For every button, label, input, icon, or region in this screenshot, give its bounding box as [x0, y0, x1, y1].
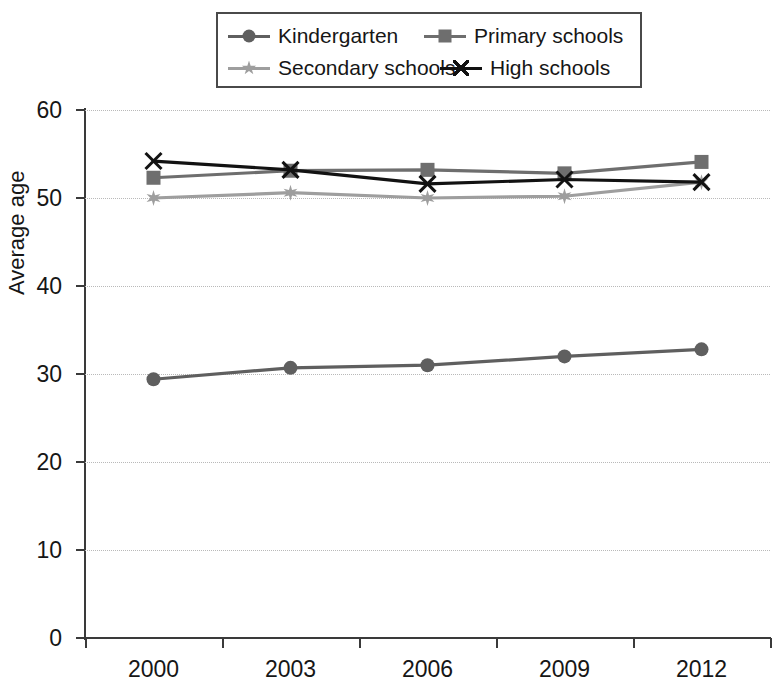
y-tick-label-10: 10	[36, 537, 62, 564]
x-tick-label-2012: 2012	[676, 656, 727, 683]
plot-area: 0102030405060 20002003200620092012	[85, 110, 770, 638]
square-marker-icon	[147, 171, 161, 185]
legend-marker-square-icon	[424, 26, 466, 46]
y-tick-0: 0	[76, 637, 85, 639]
series-secondary-schools	[147, 174, 709, 206]
legend-entry-high-schools: High schools	[440, 56, 630, 80]
square-marker-icon	[439, 30, 452, 43]
y-tick-60: 60	[76, 109, 85, 111]
series-layer	[85, 110, 770, 638]
x-tick-label-2006: 2006	[402, 656, 453, 683]
x-tick-1	[222, 638, 224, 648]
square-marker-icon	[695, 155, 709, 169]
legend-row-1: Kindergarten Primary schools	[228, 20, 630, 52]
line-chart-figure: Kindergarten Primary schools Secondary s…	[0, 0, 784, 690]
legend-label-kindergarten: Kindergarten	[278, 24, 398, 48]
legend-marker-star-icon	[228, 58, 270, 78]
circle-marker-icon	[147, 372, 161, 386]
y-tick-label-0: 0	[49, 625, 62, 652]
x-tick-5	[770, 638, 772, 648]
x-tick-3	[496, 638, 498, 648]
chart-legend: Kindergarten Primary schools Secondary s…	[216, 12, 642, 88]
x-marker-icon	[453, 60, 469, 76]
circle-marker-icon	[243, 30, 256, 43]
y-tick-label-60: 60	[36, 97, 62, 124]
series-kindergarten	[147, 342, 709, 386]
y-axis-title: Average age	[4, 171, 30, 295]
legend-label-secondary-schools: Secondary schools	[278, 56, 455, 80]
y-tick-label-50: 50	[36, 185, 62, 212]
x-tick-0	[85, 638, 87, 648]
x-tick-label-2000: 2000	[128, 656, 179, 683]
y-tick-40: 40	[76, 285, 85, 287]
circle-marker-icon	[284, 361, 298, 375]
x-tick-2	[359, 638, 361, 648]
x-tick-label-2003: 2003	[265, 656, 316, 683]
legend-label-primary-schools: Primary schools	[474, 24, 623, 48]
circle-marker-icon	[558, 349, 572, 363]
square-marker-icon	[421, 163, 435, 177]
y-tick-label-40: 40	[36, 273, 62, 300]
y-tick-50: 50	[76, 197, 85, 199]
legend-marker-x-icon	[440, 58, 482, 78]
circle-marker-icon	[695, 342, 709, 356]
legend-label-high-schools: High schools	[490, 56, 610, 80]
legend-row-2: Secondary schools High schools	[228, 52, 630, 84]
legend-entry-secondary-schools: Secondary schools	[228, 56, 440, 80]
legend-marker-circle-icon	[228, 26, 270, 46]
y-tick-30: 30	[76, 373, 85, 375]
x-tick-4	[633, 638, 635, 648]
y-tick-label-30: 30	[36, 361, 62, 388]
y-tick-10: 10	[76, 549, 85, 551]
circle-marker-icon	[421, 358, 435, 372]
y-tick-20: 20	[76, 461, 85, 463]
legend-entry-kindergarten: Kindergarten	[228, 24, 424, 48]
y-tick-label-20: 20	[36, 449, 62, 476]
x-tick-label-2009: 2009	[539, 656, 590, 683]
legend-entry-primary-schools: Primary schools	[424, 24, 624, 48]
